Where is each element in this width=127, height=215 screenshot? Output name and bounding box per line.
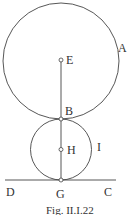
point-e <box>59 58 63 62</box>
point-g <box>59 178 63 182</box>
label-i: I <box>97 140 101 154</box>
label-c: C <box>104 185 112 199</box>
point-h <box>59 148 63 152</box>
label-d: D <box>6 185 15 199</box>
figure-caption: Fig. II.I.22 <box>46 204 94 215</box>
label-g: G <box>56 187 65 201</box>
label-h: H <box>67 143 76 157</box>
label-e: E <box>66 53 73 67</box>
geometry-diagram: A E B H I D G C Fig. II.I.22 <box>0 0 127 215</box>
point-b <box>59 117 63 121</box>
label-a: A <box>118 41 127 55</box>
label-b: B <box>65 104 73 118</box>
